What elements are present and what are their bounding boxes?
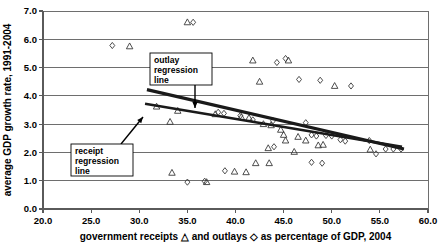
data-point-triangle: [252, 160, 258, 166]
outlay-regression-callout-line: line: [154, 75, 169, 85]
data-point-diamond: [383, 146, 388, 152]
outlay-regression-callout-arrowhead: [192, 102, 197, 108]
data-point-diamond: [185, 179, 190, 185]
x-tick-label: 45.0: [274, 215, 293, 226]
y-tick-label: 4.0: [24, 90, 37, 101]
data-point-triangle: [243, 169, 249, 175]
data-point-triangle: [169, 169, 175, 175]
data-point-triangle: [320, 141, 326, 147]
data-point-diamond: [110, 42, 115, 48]
y-tick-label: 6.0: [24, 34, 37, 45]
data-point-triangle: [250, 57, 256, 63]
x-tick-label: 40.0: [226, 215, 245, 226]
data-point-diamond: [374, 151, 379, 157]
x-axis-title: government receipts △ and outlays ◇ as p…: [80, 231, 392, 242]
data-point-diamond: [272, 144, 277, 150]
data-point-triangle: [282, 137, 288, 143]
series-diamond: [110, 19, 404, 185]
data-point-diamond: [191, 19, 196, 25]
data-point-triangle: [167, 118, 173, 124]
y-axis-title: average GDP growth rate, 1991-2004: [2, 23, 13, 196]
x-axis-title-middle: and outlays: [189, 231, 250, 242]
y-tick-label: 0.0: [24, 203, 37, 214]
data-point-triangle: [266, 160, 272, 166]
x-axis-title-prefix: government receipts: [80, 231, 181, 242]
data-point-diamond: [222, 168, 227, 174]
y-tick-label: 5.0: [24, 62, 37, 73]
outlay-regression-callout-line: regression: [154, 65, 198, 75]
data-point-triangle: [367, 146, 373, 152]
data-point-triangle: [291, 148, 297, 154]
y-tick-label: 1.0: [24, 175, 37, 186]
data-point-triangle: [265, 145, 271, 151]
data-point-diamond: [320, 160, 325, 166]
data-point-triangle: [231, 168, 237, 174]
chart-canvas: 0.01.02.03.04.05.06.07.020.025.030.035.0…: [0, 0, 440, 250]
data-point-triangle: [184, 19, 190, 25]
receipt-regression-callout-line: line: [75, 166, 90, 176]
outlay-regression-callout-line: outlay: [154, 55, 180, 65]
y-tick-label: 7.0: [24, 5, 37, 16]
series-triangle: [126, 19, 373, 185]
x-axis-title-suffix: as percentage of GDP, 2004: [258, 231, 392, 242]
receipt-regression-callout-line: regression: [75, 156, 119, 166]
data-point-triangle: [256, 78, 262, 84]
data-point-diamond: [343, 138, 348, 144]
x-tick-label: 60.0: [419, 215, 438, 226]
data-point-triangle: [303, 137, 309, 143]
x-tick-label: 20.0: [34, 215, 53, 226]
data-point-diamond: [309, 159, 314, 165]
data-point-diamond: [274, 59, 279, 65]
y-tick-label: 2.0: [24, 147, 37, 158]
x-tick-label: 35.0: [178, 215, 197, 226]
data-point-triangle: [331, 83, 337, 89]
data-point-triangle: [285, 57, 291, 63]
receipt-regression-callout-line: receipt: [75, 146, 103, 156]
trendline-receipt: [145, 104, 402, 147]
x-tick-label: 25.0: [82, 215, 101, 226]
diamond-legend-icon: ◇: [249, 231, 258, 242]
data-point-diamond: [349, 83, 354, 89]
y-tick-label: 3.0: [24, 119, 37, 130]
data-point-triangle: [295, 133, 301, 139]
outlay-regression-callout: outlayregressionline: [150, 53, 212, 108]
triangle-legend-icon: △: [180, 231, 189, 242]
data-point-diamond: [318, 77, 323, 83]
receipt-regression-callout: receiptregressionline: [71, 117, 143, 176]
x-tick-label: 50.0: [323, 215, 342, 226]
data-point-diamond: [297, 76, 302, 82]
x-tick-label: 55.0: [371, 215, 390, 226]
data-point-triangle: [126, 43, 132, 49]
scatter-chart: 0.01.02.03.04.05.06.07.020.025.030.035.0…: [0, 0, 440, 250]
x-tick-label: 30.0: [130, 215, 149, 226]
